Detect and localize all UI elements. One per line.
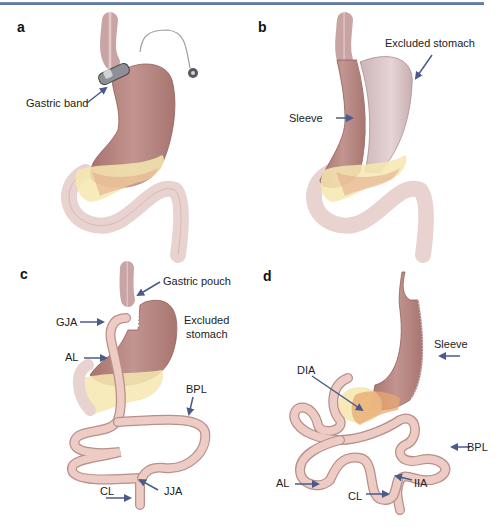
label-gja: GJA [56,316,77,329]
panel-b-drawing [314,20,432,255]
label-excluded: Excluded [184,314,229,327]
panel-a-letter: a [17,19,25,35]
panel-d-letter: d [263,268,272,284]
label-sleeve-d: Sleeve [434,338,468,351]
label-excluded-stomach: Excluded stomach [385,37,475,50]
label-gastric-pouch: Gastric pouch [163,275,231,288]
label-stomach: stomach [186,328,228,341]
label-al-d: AL [276,477,289,490]
label-cl-d: CL [348,490,362,503]
panel-c-letter: c [20,266,28,282]
label-al-c: AL [65,351,78,364]
label-sleeve: Sleeve [289,112,323,125]
label-cl-c: CL [100,485,114,498]
label-bpl-c: BPL [186,383,207,396]
bariatric-surgery-illustration [0,0,496,527]
label-iia: IIA [414,477,427,490]
label-dia: DIA [297,364,315,377]
label-jja: JJA [164,485,182,498]
panel-d-drawing [294,272,470,510]
panel-a-drawing [69,20,198,255]
label-bpl-d: BPL [467,441,488,454]
label-gastric-band: Gastric band [26,97,88,110]
panel-b-letter: b [258,19,267,35]
